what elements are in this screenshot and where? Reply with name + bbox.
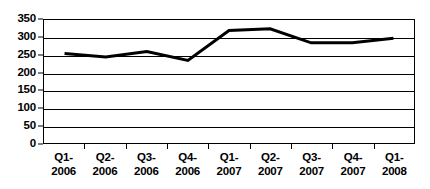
y-tick-mark [38, 90, 43, 91]
x-tick-label-line: 2008 [382, 164, 407, 178]
y-tick-mark [38, 19, 43, 20]
gridline [44, 127, 414, 128]
x-tick-label-line: 2006 [93, 164, 118, 178]
y-axis: 050100150200250300350 [0, 0, 36, 189]
gridline [44, 109, 414, 110]
x-tick-label: Q1-2006 [51, 150, 76, 178]
x-tick-label-line: 2007 [341, 164, 366, 178]
gridline [44, 56, 414, 57]
x-tick-label: Q2-2007 [258, 150, 283, 178]
x-tick-mark [84, 144, 85, 149]
x-tick-mark [332, 144, 333, 149]
y-tick-mark [38, 54, 43, 55]
x-tick-label: Q4-2006 [175, 150, 200, 178]
x-tick-label-line: 2007 [258, 164, 283, 178]
x-tick-label-line: Q2- [258, 150, 283, 164]
y-tick-label: 200 [0, 67, 36, 79]
x-tick-mark [250, 144, 251, 149]
x-tick-label-line: 2006 [175, 164, 200, 178]
x-tick-label: Q3-2007 [299, 150, 324, 178]
x-axis: Q1-2006Q2-2006Q3-2006Q4-2006Q1-2007Q2-20… [43, 150, 415, 189]
x-tick-label-line: 2006 [51, 164, 76, 178]
x-tick-label: Q1-2007 [217, 150, 242, 178]
x-tick-label: Q3-2006 [134, 150, 159, 178]
y-tick-label: 0 [0, 138, 36, 150]
y-tick-mark [38, 126, 43, 127]
line-chart: 050100150200250300350 Q1-2006Q2-2006Q3-2… [0, 0, 430, 189]
gridline [44, 38, 414, 39]
gridline [44, 91, 414, 92]
y-tick-mark [38, 108, 43, 109]
x-tick-label-line: 2006 [134, 164, 159, 178]
y-tick-label: 250 [0, 49, 36, 61]
x-tick-label-line: Q3- [299, 150, 324, 164]
x-tick-mark [126, 144, 127, 149]
y-tick-mark [38, 144, 43, 145]
x-tick-label-line: Q2- [93, 150, 118, 164]
y-tick-mark [38, 36, 43, 37]
x-tick-label-line: Q1- [382, 150, 407, 164]
x-tick-label-line: Q1- [51, 150, 76, 164]
y-tick-label: 150 [0, 85, 36, 97]
x-tick-label-line: Q3- [134, 150, 159, 164]
x-tick-label-line: Q4- [341, 150, 366, 164]
y-tick-label: 350 [0, 13, 36, 25]
x-tick-label: Q4-2007 [341, 150, 366, 178]
plot-area [43, 19, 415, 144]
x-tick-label: Q1-2008 [382, 150, 407, 178]
x-tick-label-line: Q4- [175, 150, 200, 164]
y-tick-label: 50 [0, 120, 36, 132]
x-tick-mark [374, 144, 375, 149]
x-tick-label-line: 2007 [299, 164, 324, 178]
x-tick-label-line: 2007 [217, 164, 242, 178]
x-tick-label: Q2-2006 [93, 150, 118, 178]
y-tick-label: 300 [0, 31, 36, 43]
x-tick-label-line: Q1- [217, 150, 242, 164]
y-tick-label: 100 [0, 103, 36, 115]
y-tick-mark [38, 72, 43, 73]
x-tick-mark [291, 144, 292, 149]
x-tick-mark [167, 144, 168, 149]
gridline [44, 74, 414, 75]
x-tick-mark [208, 144, 209, 149]
